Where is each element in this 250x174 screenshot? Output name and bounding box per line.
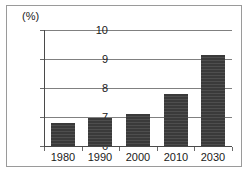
bar-1990 (88, 118, 112, 146)
x-axis-line (44, 146, 232, 147)
x-tick-3 (157, 147, 158, 151)
plot-area (44, 30, 232, 146)
x-tick-2 (119, 147, 120, 151)
x-tick-5 (232, 147, 233, 151)
x-tick-0 (44, 147, 45, 151)
bar-1980 (51, 123, 75, 146)
x-tick-4 (194, 147, 195, 151)
bar-2010 (164, 94, 188, 146)
bar-2000 (126, 114, 150, 146)
bar-2030 (201, 55, 225, 146)
x-tick-1 (82, 147, 83, 151)
y-axis-unit-label: (%) (22, 11, 39, 22)
x-tick-label-2030: 2030 (191, 152, 235, 163)
